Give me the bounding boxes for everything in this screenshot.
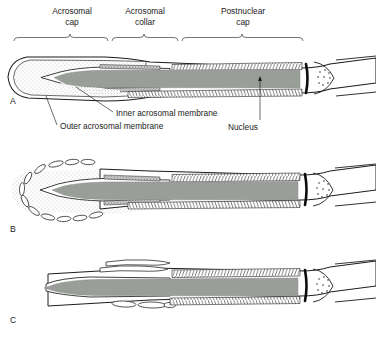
sperm-acrosome-reaction-figure: Acrosomal cap Acrosomal collar Postnucle… [0, 0, 376, 339]
nucleus [44, 278, 298, 296]
nucleus [54, 70, 300, 89]
panel-c-letter: C [10, 315, 16, 325]
postnuclear-cap-label-line1: Postnuclear [221, 6, 265, 16]
panel-a-letter: A [10, 96, 16, 106]
postnuclear-cap-hatching-dorsal [172, 269, 300, 278]
acrosomal-cap-label-line2: cap [65, 17, 79, 27]
outer-acrosomal-membrane-label: Outer acrosomal membrane [60, 121, 164, 131]
implantation-fossa-bar [305, 174, 307, 205]
inner-acrosomal-membrane-label: Inner acrosomal membrane [116, 108, 218, 118]
nucleus-label: Nucleus [228, 122, 258, 132]
acrosomal-collar-label-line1: Acrosomal [125, 6, 165, 16]
implantation-fossa-bar [306, 64, 308, 93]
postnuclear-cap-hatching-dorsal [172, 173, 300, 182]
implantation-fossa-bar [305, 270, 307, 301]
panel-b-letter: B [10, 224, 16, 234]
postnuclear-cap-label-line2: cap [236, 17, 250, 27]
nucleus [52, 182, 298, 201]
acrosomal-collar-label-line2: collar [135, 17, 155, 27]
acrosomal-cap-label-line1: Acrosomal [52, 6, 92, 16]
postnuclear-cap-hatching-ventral [170, 297, 300, 306]
